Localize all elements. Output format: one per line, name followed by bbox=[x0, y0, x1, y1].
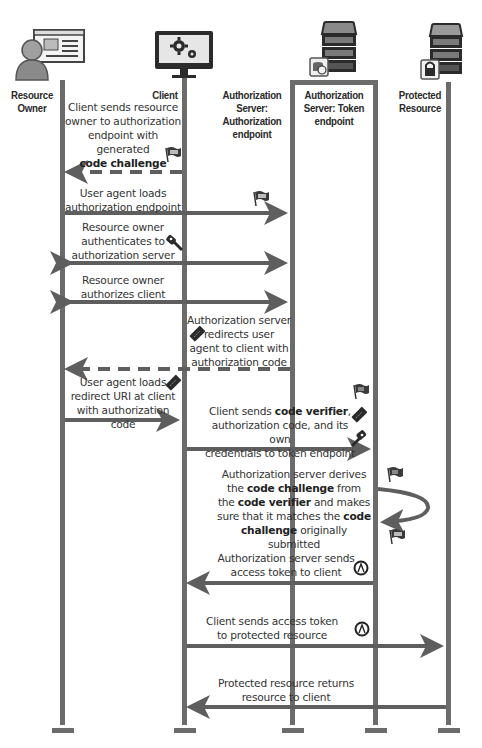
text-line: authenticates to bbox=[64, 234, 182, 248]
text-span: the bbox=[227, 482, 247, 494]
text-line: authorization code bbox=[186, 355, 292, 369]
message-11-label: Protected resource returns resource to c… bbox=[216, 676, 356, 704]
bold-text: challenge bbox=[241, 524, 297, 536]
flag-icon bbox=[252, 190, 270, 206]
text-line: authorizes client bbox=[64, 287, 182, 301]
text-span: Client sends bbox=[209, 405, 275, 417]
text-span: the bbox=[218, 496, 238, 508]
flag-icon bbox=[352, 383, 370, 399]
key-icon bbox=[166, 234, 184, 252]
bold-text: code verifier bbox=[238, 496, 311, 508]
text-line: Resource owner bbox=[64, 220, 182, 234]
ticket-icon bbox=[164, 374, 182, 392]
message-7-label: Client sends code verifier, authorizatio… bbox=[200, 404, 360, 460]
text-line: authorization code, and its own bbox=[200, 418, 360, 446]
flag-icon bbox=[386, 466, 404, 482]
message-9-label: Authorization server sends access token … bbox=[216, 551, 356, 579]
text-line: access token to client bbox=[216, 565, 356, 579]
bold-text: code challenge bbox=[247, 482, 334, 494]
access-token-icon bbox=[353, 560, 369, 576]
flag-icon bbox=[388, 528, 406, 544]
text-line: authorization server bbox=[64, 248, 182, 262]
text-line: endpoint with bbox=[64, 128, 182, 142]
bold-text: code challenge bbox=[80, 157, 167, 169]
key-icon bbox=[350, 430, 368, 448]
message-4-label: Resource owner authorizes client bbox=[64, 273, 182, 301]
text-span: from bbox=[334, 482, 361, 494]
text-line: authorization endpoint bbox=[64, 200, 182, 214]
bold-text: code bbox=[343, 510, 371, 522]
flag-icon bbox=[164, 146, 182, 162]
text-line: Authorization server sends bbox=[216, 551, 356, 565]
bold-text: code verifier bbox=[275, 405, 348, 417]
text-line: resource to client bbox=[216, 690, 356, 704]
text-line: Client sends resource bbox=[64, 100, 182, 114]
text-line: Protected resource returns bbox=[216, 676, 356, 690]
text-span: sure that it matches the bbox=[217, 510, 343, 522]
ticket-icon bbox=[350, 406, 368, 424]
ticket-icon bbox=[188, 325, 206, 343]
text-line: with authorization code bbox=[64, 403, 182, 431]
text-line: credentials to token endpoint bbox=[200, 446, 360, 460]
text-line: Resource owner bbox=[64, 273, 182, 287]
text-line: agent to client with bbox=[186, 341, 292, 355]
message-2-label: User agent loads authorization endpoint bbox=[64, 186, 182, 214]
message-10-label: Client sends access token to protected r… bbox=[202, 614, 342, 642]
message-8-label: Authorization server derives the code ch… bbox=[216, 467, 372, 551]
message-3-label: Resource owner authenticates to authoriz… bbox=[64, 220, 182, 262]
text-line: User agent loads bbox=[64, 186, 182, 200]
text-line: to protected resource bbox=[202, 628, 342, 642]
text-span: and makes bbox=[311, 496, 370, 508]
access-token-icon bbox=[354, 621, 370, 637]
text-line: Client sends access token bbox=[202, 614, 342, 628]
text-line: owner to authorization bbox=[64, 114, 182, 128]
text-line: Authorization server derives bbox=[216, 467, 372, 481]
